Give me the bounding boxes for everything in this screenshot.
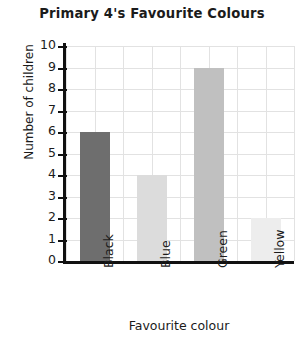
x-axis-line: [63, 261, 294, 264]
y-tick-label: 0: [34, 254, 56, 267]
y-tick-mark: [58, 261, 67, 263]
y-tick-label: 10: [34, 39, 56, 52]
y-tick-label: 4: [34, 168, 56, 181]
y-tick-mark: [58, 240, 67, 242]
gridline-vertical: [123, 46, 124, 261]
x-tick-label-black: Black: [101, 198, 116, 268]
y-tick-mark: [58, 218, 67, 220]
y-tick-mark: [58, 132, 67, 134]
y-tick-label: 3: [34, 190, 56, 203]
bar-chart: Primary 4's Favourite Colours Number of …: [0, 0, 304, 343]
y-tick-mark: [58, 175, 67, 177]
y-tick-label: 8: [34, 82, 56, 95]
x-axis-title: Favourite colour: [60, 318, 298, 333]
y-tick-label: 2: [34, 211, 56, 224]
x-tick-label-blue: Blue: [158, 198, 173, 268]
y-tick-label: 1: [34, 233, 56, 246]
y-tick-mark: [58, 197, 67, 199]
y-tick-mark: [58, 111, 67, 113]
x-tick-label-yellow: Yellow: [272, 198, 287, 268]
gridline-vertical: [294, 46, 295, 261]
y-tick-mark: [58, 154, 67, 156]
y-tick-label: 9: [34, 61, 56, 74]
y-tick-label: 6: [34, 125, 56, 138]
y-tick-mark: [58, 46, 67, 48]
y-tick-mark: [58, 68, 67, 70]
gridline-vertical: [237, 46, 238, 261]
y-tick-mark: [58, 89, 67, 91]
y-tick-label: 7: [34, 104, 56, 117]
x-tick-label-green: Green: [215, 198, 230, 268]
y-tick-label: 5: [34, 147, 56, 160]
chart-title: Primary 4's Favourite Colours: [0, 6, 304, 21]
gridline-vertical: [180, 46, 181, 261]
